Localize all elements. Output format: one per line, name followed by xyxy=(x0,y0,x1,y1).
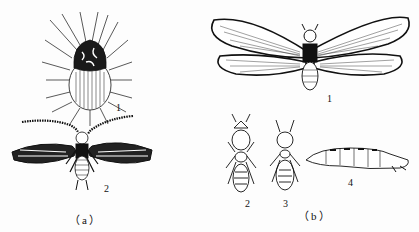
caption-b: （b） xyxy=(298,210,332,222)
caption-a: （a） xyxy=(69,214,102,226)
label-b4: 4 xyxy=(348,178,353,188)
label-a2: 2 xyxy=(104,184,109,194)
illustration-canvas xyxy=(0,0,419,232)
insect-b1-icon xyxy=(212,17,409,90)
insect-b3-icon xyxy=(270,120,300,190)
figure: 1 2 （a） 1 2 3 4 （b） xyxy=(0,0,419,232)
label-a1: 1 xyxy=(116,103,121,113)
label-b1: 1 xyxy=(327,94,332,104)
insect-b4-icon xyxy=(306,148,408,172)
insect-b2-icon xyxy=(226,114,256,192)
label-b3: 3 xyxy=(283,199,288,209)
label-b2: 2 xyxy=(245,199,250,209)
insect-a2-icon xyxy=(12,116,152,190)
